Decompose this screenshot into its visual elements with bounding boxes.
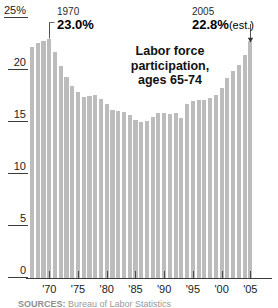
x-tick-label: '75: [71, 283, 85, 295]
x-tick-mark: [107, 271, 108, 278]
x-tick-label: '70: [42, 283, 56, 295]
source-line: SOURCES: Bureau of Labor Statistics: [18, 299, 268, 308]
x-tick-mark: [49, 271, 50, 278]
annotation-2005-arrow-icon: [245, 24, 256, 43]
source-text: Bureau of Labor Statistics: [68, 299, 171, 308]
x-tick-label: '80: [100, 283, 114, 295]
chart-figure: 25%20151050 '70'75'80'85'90'95'00'05 Lab…: [0, 0, 278, 308]
chart-title: Labor force participation, ages 65-74: [114, 44, 226, 88]
source-prefix: SOURCES:: [18, 299, 66, 308]
x-tick-mark: [250, 271, 251, 278]
chart-title-line-3: ages 65-74: [114, 73, 226, 88]
x-tick-mark: [135, 271, 136, 278]
x-tick-mark: [222, 271, 223, 278]
chart-title-line-1: Labor force: [114, 44, 226, 59]
x-tick-mark: [193, 271, 194, 278]
annotation-2005-year: 2005: [192, 6, 254, 17]
annotation-1970-leader-icon: [48, 22, 55, 39]
x-tick-label: '85: [128, 283, 142, 295]
x-tick-mark: [78, 271, 79, 278]
chart-title-line-2: participation,: [114, 59, 226, 74]
x-tick-label: '05: [243, 283, 257, 295]
x-tick-mark: [164, 271, 165, 278]
annotation-1970: 1970 23.0%: [57, 6, 94, 32]
x-tick-label: '95: [186, 283, 200, 295]
x-tick-label: '90: [157, 283, 171, 295]
annotation-1970-value: 23.0%: [57, 17, 94, 32]
x-tick-label: '00: [214, 283, 228, 295]
annotation-1970-year: 1970: [57, 6, 94, 17]
annotation-2005-number: 22.8%: [192, 17, 229, 32]
